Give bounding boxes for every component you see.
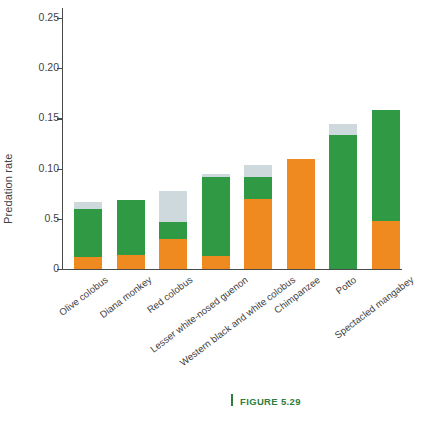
x-axis-label-7: Potto xyxy=(333,274,358,296)
figure-root: Predation rate 00.50.100.150.200.25 Oliv… xyxy=(0,0,423,422)
bar-segment-green xyxy=(202,177,230,257)
y-tick-label: 0.25 xyxy=(39,11,59,23)
bar-8[interactable] xyxy=(372,110,400,269)
y-tick-label: 0.10 xyxy=(39,162,59,174)
bar-3[interactable] xyxy=(159,191,187,269)
bar-segment-green xyxy=(244,177,272,199)
bar-6[interactable] xyxy=(287,159,315,269)
plot-area: 00.50.100.150.200.25 xyxy=(62,8,402,270)
bar-segment-gray xyxy=(202,174,230,177)
bar-segment-green xyxy=(74,209,102,258)
y-axis-title-label: Predation rate xyxy=(2,104,14,224)
bar-2[interactable] xyxy=(117,200,145,269)
bar-segment-orange xyxy=(202,256,230,269)
bar-segment-gray xyxy=(329,124,357,135)
bar-segment-orange xyxy=(159,239,187,269)
x-axis-labels: Olive colobusDiana monkeyRed colobusLess… xyxy=(0,272,423,382)
bars-layer xyxy=(62,8,402,270)
bar-1[interactable] xyxy=(74,202,102,269)
bar-segment-gray xyxy=(74,202,102,209)
bar-segment-gray xyxy=(159,191,187,222)
figure-caption: FIGURE 5.29 xyxy=(240,396,301,407)
bar-4[interactable] xyxy=(202,174,230,269)
bar-segment-green xyxy=(372,110,400,220)
bar-segment-orange xyxy=(244,199,272,269)
bar-segment-green xyxy=(159,222,187,240)
y-axis-title: Predation rate xyxy=(2,0,18,112)
bar-segment-orange xyxy=(372,221,400,269)
y-tick-label: 0.20 xyxy=(39,61,59,73)
bar-segment-green xyxy=(117,200,145,256)
bar-segment-orange xyxy=(287,159,315,269)
bar-segment-orange xyxy=(117,255,145,269)
y-tick-label: 0.15 xyxy=(39,111,59,123)
bar-7[interactable] xyxy=(329,124,357,269)
caption-rule xyxy=(231,394,233,406)
bar-segment-gray xyxy=(244,165,272,177)
bar-5[interactable] xyxy=(244,165,272,269)
bar-segment-orange xyxy=(74,257,102,269)
bar-segment-green xyxy=(329,135,357,269)
y-tick-label: 0.5 xyxy=(44,212,59,224)
